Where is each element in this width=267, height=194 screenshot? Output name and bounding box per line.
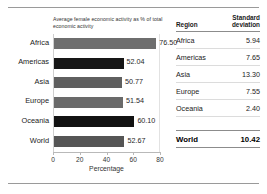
table-spacer-row xyxy=(176,117,260,131)
table-total-row: World10.42 xyxy=(176,131,260,148)
table-body: Africa5.94Americas7.65Asia13.30Europe7.5… xyxy=(176,32,260,148)
plot-area: Africa76.50Americas52.04Asia50.77Europe5… xyxy=(53,34,160,152)
cell-standard-deviation: 2.40 xyxy=(206,100,260,117)
x-axis-tick-label: 40 xyxy=(103,156,110,163)
cell-region: Americas xyxy=(176,49,206,66)
x-axis-tick xyxy=(80,152,81,155)
x-axis-tick-label: 20 xyxy=(76,156,83,163)
cell-total-region: World xyxy=(176,131,206,148)
table-row: Africa5.94 xyxy=(176,32,260,49)
category-label: World xyxy=(30,136,49,145)
table-row: Oceania2.40 xyxy=(176,100,260,117)
x-axis-tick-label: 0 xyxy=(51,156,55,163)
bar-row: Europe51.54 xyxy=(54,93,159,113)
figure-container: Average female economic activity as % of… xyxy=(0,0,267,194)
category-label: Europe xyxy=(25,96,49,105)
bar-value-label: 76.50 xyxy=(159,38,177,47)
bottom-divider-rule xyxy=(8,183,259,184)
category-label: Asia xyxy=(35,77,49,86)
x-axis-tick-label: 80 xyxy=(156,156,163,163)
spacer-cell xyxy=(206,117,260,131)
cell-total-standard-deviation: 10.42 xyxy=(206,131,260,148)
bar-value-label: 52.04 xyxy=(127,57,145,66)
bar-row: Americas52.04 xyxy=(54,54,159,74)
cell-region: Africa xyxy=(176,32,206,49)
bar-row: World52.67 xyxy=(54,132,159,152)
chart-title: Average female economic activity as % of… xyxy=(53,16,163,30)
x-axis-tick-label: 60 xyxy=(130,156,137,163)
x-axis-title: Percentage xyxy=(53,165,160,172)
cell-region: Asia xyxy=(176,66,206,83)
bar-value-label: 60.10 xyxy=(137,116,155,125)
bar-value-label: 52.67 xyxy=(127,136,145,145)
x-axis-tick xyxy=(107,152,108,155)
bar-series: Africa76.50Americas52.04Asia50.77Europe5… xyxy=(54,34,159,152)
x-axis-tick xyxy=(133,152,134,155)
bar-row: Oceania60.10 xyxy=(54,112,159,132)
bar-row: Asia50.77 xyxy=(54,73,159,93)
standard-deviation-table: Region Standard deviation Africa5.94Amer… xyxy=(176,14,260,148)
cell-standard-deviation: 7.55 xyxy=(206,83,260,100)
cell-region: Oceania xyxy=(176,100,206,117)
table-row: Americas7.65 xyxy=(176,49,260,66)
x-axis-tick xyxy=(160,152,161,155)
cell-standard-deviation: 5.94 xyxy=(206,32,260,49)
standard-deviation-table-panel: Region Standard deviation Africa5.94Amer… xyxy=(176,14,260,148)
table-row: Asia13.30 xyxy=(176,66,260,83)
bar-row: Africa76.50 xyxy=(54,34,159,54)
bar-chart-panel: Average female economic activity as % of… xyxy=(0,14,168,179)
table-header-row: Region Standard deviation xyxy=(176,14,260,32)
column-header-standard-deviation: Standard deviation xyxy=(206,14,260,32)
bar xyxy=(54,116,134,127)
bar xyxy=(54,77,122,88)
category-label: Africa xyxy=(30,38,49,47)
bar-value-label: 50.77 xyxy=(125,77,143,86)
cell-region: Europe xyxy=(176,83,206,100)
cell-standard-deviation: 7.65 xyxy=(206,49,260,66)
bar xyxy=(54,38,156,49)
spacer-cell xyxy=(176,117,206,131)
top-divider-rule xyxy=(8,7,259,8)
x-axis: 020406080 xyxy=(53,152,160,153)
bar xyxy=(54,58,124,69)
cell-standard-deviation: 13.30 xyxy=(206,66,260,83)
column-header-region: Region xyxy=(176,14,206,32)
bar xyxy=(54,97,123,108)
x-axis-tick xyxy=(53,152,54,155)
table-row: Europe7.55 xyxy=(176,83,260,100)
bar xyxy=(54,136,124,147)
bar-value-label: 51.54 xyxy=(126,96,144,105)
category-label: Americas xyxy=(18,57,49,66)
category-label: Oceania xyxy=(21,116,49,125)
